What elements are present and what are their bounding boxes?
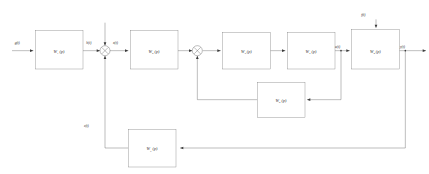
block-w1[interactable]: W1 (p) <box>35 31 83 69</box>
summing-junction-1[interactable] <box>100 46 110 56</box>
block-w3[interactable]: W3 (p) <box>223 32 271 69</box>
arrowhead-w7-in <box>180 147 183 150</box>
arrowhead-w4-in <box>282 49 285 52</box>
block-diagram-svg: W1 (p) W2 (p) W3 (p) W4 (p) W5 (p) W6 (p <box>0 0 429 174</box>
arrowhead-output-y <box>423 49 426 52</box>
signal-label-h: h(t) <box>86 41 92 45</box>
arrowhead-w5-in <box>346 49 349 52</box>
signal-label-z: z(t) <box>83 124 90 128</box>
block-w6[interactable]: W6 (p) <box>257 82 305 117</box>
signal-label-g: g(t) <box>15 41 21 45</box>
arrowhead-sum2-bottom-in <box>196 56 199 59</box>
signal-label-u: u(t) <box>335 45 341 49</box>
signal-label-x: x(t) <box>112 41 119 45</box>
block-w7[interactable]: W7 (p) <box>128 129 176 167</box>
summing-junction-2[interactable] <box>192 46 202 56</box>
arrowhead-w5-top-in <box>375 25 378 28</box>
arrowhead-w6-in <box>307 98 310 101</box>
signal-label-y: y(t) <box>399 45 406 49</box>
block-diagram-canvas: W1 (p) W2 (p) W3 (p) W4 (p) W5 (p) W6 (p <box>0 0 429 174</box>
block-w2[interactable]: W2 (p) <box>130 31 178 69</box>
arrowhead-w3-in <box>217 49 220 52</box>
arrowhead-sum1-top-in <box>104 42 107 45</box>
signal-label-layer: g(t) h(t) x(t) u(t) y(t) f(t) z(t) <box>15 13 406 128</box>
arrowhead-sum1-bottom-in <box>104 56 107 59</box>
arrowhead-sum1-left-in <box>97 49 100 52</box>
block-w5[interactable]: W5 (p) <box>352 29 400 69</box>
junction-dot-u <box>340 50 342 52</box>
signal-label-f: f(t) <box>361 13 366 17</box>
block-w4[interactable]: W4 (p) <box>287 32 335 69</box>
arrowhead-w1-in <box>30 49 33 52</box>
arrowhead-w2-in <box>125 49 128 52</box>
arrowhead-sum2-left-in <box>189 49 192 52</box>
